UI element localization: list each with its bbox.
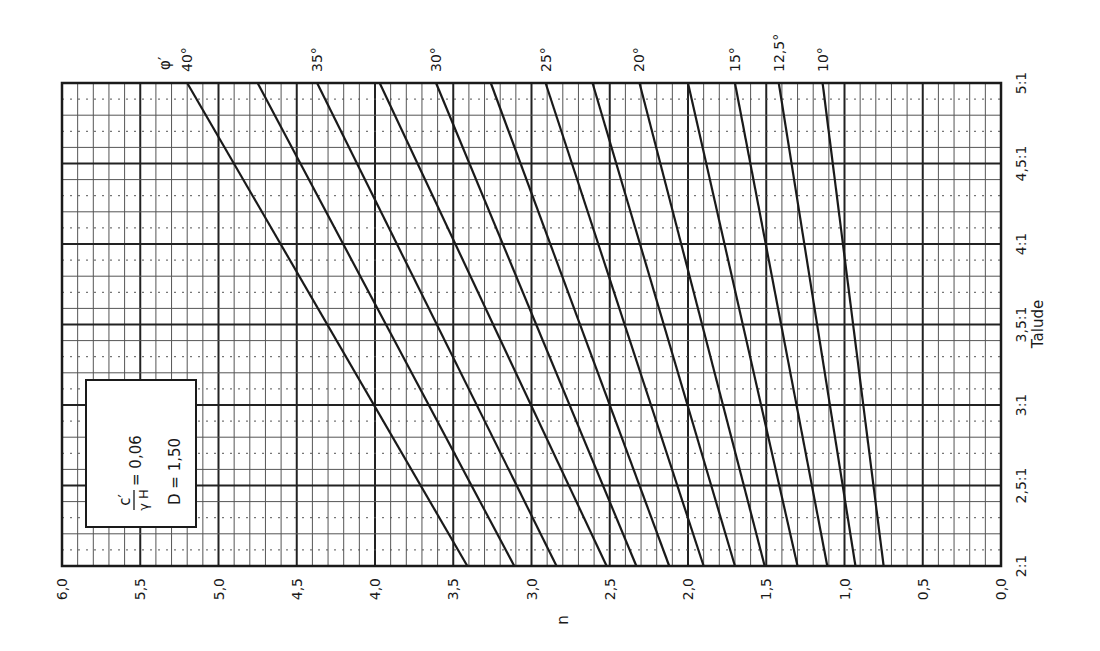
n-tick-label: 5,5 [132, 578, 148, 600]
n-tick-label: 1,5 [758, 578, 774, 600]
talude-tick-label: 2:1 [1013, 555, 1029, 578]
phi-legend-title: φ′ [156, 56, 174, 70]
n-tick-label: 2,0 [680, 578, 696, 600]
stability-chart: c′ γ H = 0,06 D = 1,50 6,05,55,04,54,03,… [0, 0, 1100, 651]
annotation-cprime: c′ [116, 494, 134, 506]
chart-grid [62, 83, 1001, 566]
n-tick-label: 4,5 [289, 578, 305, 600]
n-tick-label: 5,0 [211, 578, 227, 600]
phi-curve-label: 40° [179, 47, 195, 72]
talude-tick-label: 5:1 [1013, 72, 1029, 95]
talude-tick-label: 2,5:1 [1013, 468, 1029, 504]
phi-curve-label: 12,5° [771, 34, 787, 72]
n-tick-label: 3,0 [524, 578, 540, 600]
n-tick-label: 2,5 [602, 578, 618, 600]
n-tick-label: 3,5 [445, 578, 461, 600]
phi-curve-label: 15° [727, 47, 743, 72]
parameters-annotation: c′ γ H = 0,06 D = 1,50 [86, 380, 196, 527]
phi-labels: 40°35°30°25°20°15°12,5°10° [179, 34, 830, 72]
talude-tick-label: 3:1 [1013, 394, 1029, 417]
phi-curve-label: 10° [815, 47, 831, 72]
n-tick-label: 0,0 [993, 578, 1009, 600]
n-tick-label: 1,0 [837, 578, 853, 600]
annotation-ratio-value: = 0,06 [127, 435, 145, 486]
n-axis-ticks: 6,05,55,04,54,03,53,02,52,01,51,00,50,0 [54, 578, 1009, 600]
n-tick-label: 6,0 [54, 578, 70, 600]
talude-axis-ticks: 2:12,5:13:13,5:14:14,5:15:1 [1013, 72, 1029, 578]
talude-tick-label: 3,5:1 [1013, 307, 1029, 343]
n-axis-label: n [554, 615, 572, 625]
annotation-gamma-h: γ H [136, 489, 151, 511]
annotation-depth: D = 1,50 [166, 438, 184, 505]
n-tick-label: 0,5 [915, 578, 931, 600]
phi-curve-label: 20° [631, 47, 647, 72]
phi-curve-label: 25° [538, 47, 554, 72]
talude-tick-label: 4,5:1 [1013, 146, 1029, 182]
talude-axis-label: Talude [1029, 300, 1047, 349]
n-tick-label: 4,0 [367, 578, 383, 600]
talude-tick-label: 4:1 [1013, 233, 1029, 256]
phi-curve-label: 35° [309, 47, 325, 72]
phi-curve-label: 30° [428, 47, 444, 72]
